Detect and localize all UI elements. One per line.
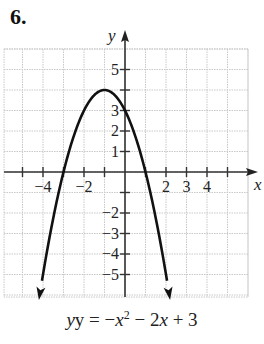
svg-text:3: 3 xyxy=(183,178,191,195)
grid-lines xyxy=(4,49,248,297)
eq-x: x xyxy=(115,309,123,330)
svg-text:3: 3 xyxy=(111,102,119,119)
eq-part-1: y = − xyxy=(75,309,115,330)
eq-part-3: + 3 xyxy=(168,309,198,330)
svg-text:−4: −4 xyxy=(34,178,51,195)
parabola-graph: −4−22345321−2−3−4−5 x y xyxy=(0,0,264,305)
y-axis-label: y xyxy=(106,26,116,45)
svg-text:5: 5 xyxy=(111,61,119,78)
svg-text:2: 2 xyxy=(162,178,170,195)
eq-y: y xyxy=(66,309,74,330)
eq-part-2: − 2 xyxy=(130,309,160,330)
function-equation: yy = −x2 − 2x + 3 xyxy=(0,308,264,331)
svg-text:−4: −4 xyxy=(102,245,119,262)
svg-text:−3: −3 xyxy=(102,225,119,242)
svg-text:−2: −2 xyxy=(75,178,92,195)
x-axis-label: x xyxy=(253,175,262,194)
svg-text:2: 2 xyxy=(111,122,119,139)
svg-text:−5: −5 xyxy=(102,266,119,283)
svg-text:1: 1 xyxy=(111,143,119,160)
curve-end-arrows xyxy=(37,286,173,300)
svg-text:−2: −2 xyxy=(102,204,119,221)
svg-text:4: 4 xyxy=(203,178,211,195)
axes xyxy=(4,30,258,297)
eq-x2: x xyxy=(159,309,167,330)
